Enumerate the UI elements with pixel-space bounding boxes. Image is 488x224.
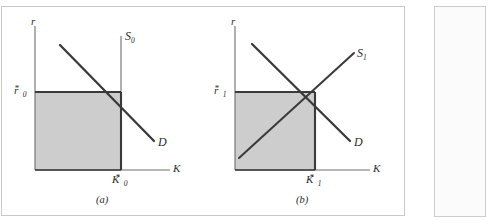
equilibrium-quantity-sup-b: * [310,172,315,182]
equilibrium-quantity-sup-a: * [116,172,121,182]
shaded-payments-rect-a [35,92,121,170]
demand-curve-label-a: D [158,136,167,148]
panel-caption-b: (b) [296,194,308,205]
side-margin-panel [434,6,486,217]
equilibrium-price-label-a: r*0 [14,85,27,96]
figure-root: r K S0 D r*0 K*0 (a) [0,0,488,224]
x-axis-label-a: K [173,163,180,174]
panel-b: r K S1 D r*1 K*1 (b) [202,6,402,210]
equilibrium-price-sup-a: * [15,83,20,93]
supply-curve-label-a: S0 [125,30,135,42]
panel-a: r K S0 D r*0 K*0 (a) [2,6,202,210]
panel-b-plot [202,6,402,210]
y-axis-label-a: r [31,16,35,27]
panel-caption-a: (a) [96,194,108,205]
shaded-payments-rect-b [235,92,315,170]
supply-curve-label-b: S1 [357,47,367,59]
panel-a-plot [2,6,202,210]
equilibrium-price-label-b: r*1 [214,85,227,96]
equilibrium-price-sub-b: 1 [223,90,227,99]
equilibrium-quantity-sub-b: 1 [318,179,322,188]
equilibrium-quantity-label-a: K*0 [112,174,128,185]
x-axis-label-b: K [373,163,380,174]
supply-curve-label-sub-b: 1 [363,53,367,62]
equilibrium-price-sup-b: * [215,83,220,93]
equilibrium-price-sub-a: 0 [23,90,27,99]
demand-curve-label-b: D [354,136,363,148]
y-axis-label-b: r [231,16,235,27]
supply-curve-label-sub-a: 0 [131,36,135,45]
equilibrium-quantity-label-b: K*1 [306,174,322,185]
equilibrium-quantity-sub-a: 0 [124,179,128,188]
